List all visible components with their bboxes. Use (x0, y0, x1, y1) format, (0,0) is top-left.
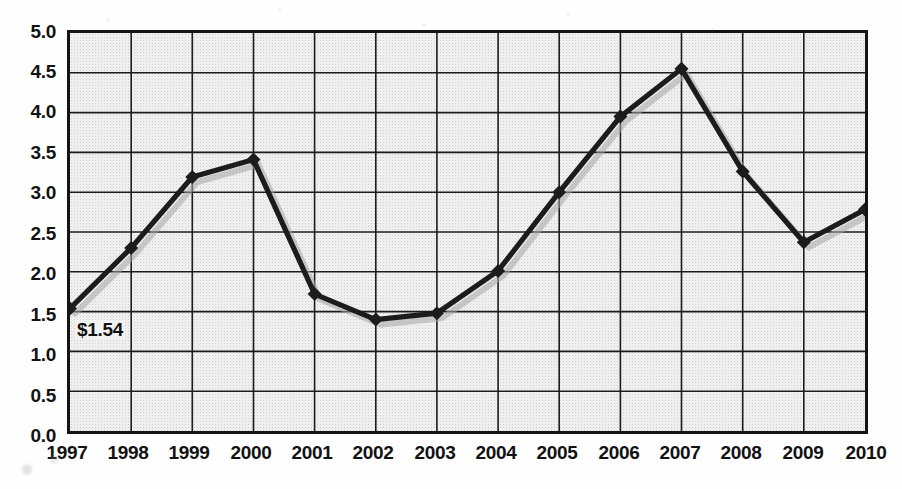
y-tick-label-1.0: 1.0 (2, 345, 56, 364)
plot-area: $1.54 (67, 30, 868, 434)
data-point-label-1997: $1.54 (75, 320, 125, 339)
x-tick-label-1998: 1998 (100, 443, 156, 462)
data-line-shadow (75, 74, 865, 325)
x-tick-label-2004: 2004 (468, 443, 524, 462)
y-tick-label-4.5: 4.5 (2, 62, 56, 81)
y-tick-label-5.0: 5.0 (2, 22, 56, 41)
y-tick-label-3.0: 3.0 (2, 183, 56, 202)
x-tick-label-1997: 1997 (39, 443, 95, 462)
y-tick-label-2.5: 2.5 (2, 224, 56, 243)
x-tick-label-2003: 2003 (407, 443, 463, 462)
x-tick-label-2008: 2008 (713, 443, 769, 462)
x-tick-label-2002: 2002 (345, 443, 401, 462)
y-tick-label-3.5: 3.5 (2, 143, 56, 162)
y-tick-label-2.0: 2.0 (2, 264, 56, 283)
x-tick-label-2006: 2006 (591, 443, 647, 462)
x-tick-label-1999: 1999 (161, 443, 217, 462)
horizontal-gridlines (70, 73, 865, 391)
line-chart: 5.0 4.5 4.0 3.5 3.0 2.5 2.0 1.5 1.0 0.5 … (0, 0, 902, 489)
plot-svg (70, 33, 865, 431)
x-tick-label-2000: 2000 (223, 443, 279, 462)
chart-page: 5.0 4.5 4.0 3.5 3.0 2.5 2.0 1.5 1.0 0.5 … (0, 0, 902, 489)
x-tick-label-2010: 2010 (838, 443, 894, 462)
y-tick-label-0.5: 0.5 (2, 386, 56, 405)
x-tick-label-2009: 2009 (775, 443, 831, 462)
x-tick-label-2005: 2005 (529, 443, 585, 462)
y-tick-label-1.5: 1.5 (2, 305, 56, 324)
y-tick-label-4.0: 4.0 (2, 102, 56, 121)
x-tick-label-2007: 2007 (652, 443, 708, 462)
x-tick-label-2001: 2001 (284, 443, 340, 462)
